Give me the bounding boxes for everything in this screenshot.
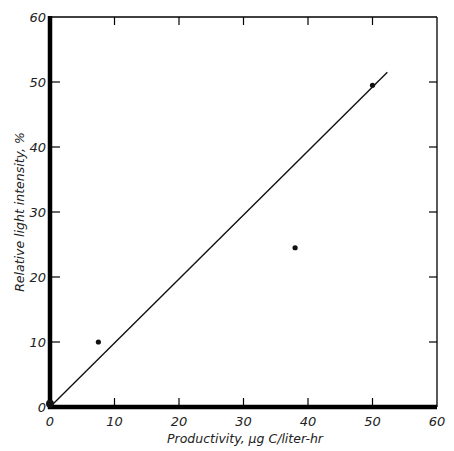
y-axis-title: Relative light intensity, % (12, 132, 27, 292)
x-tick-label: 50 (364, 414, 381, 429)
y-tick-label: 60 (29, 10, 46, 25)
fit-line (50, 72, 387, 407)
x-tick-label: 10 (106, 414, 123, 429)
chart: 0102030405060 0102030405060 Productivity… (0, 0, 454, 451)
y-tick-label: 40 (29, 140, 46, 155)
x-tick-label: 60 (429, 414, 446, 429)
y-tick-label: 30 (29, 205, 46, 220)
y-tick-label: 20 (29, 270, 46, 285)
x-tick-label: 30 (235, 414, 252, 429)
y-tick-label: 10 (29, 335, 46, 350)
x-tick-label: 20 (171, 414, 188, 429)
x-tick-label: 40 (300, 414, 317, 429)
x-axis-title: Productivity, μg C/liter-hr (167, 431, 324, 446)
y-tick-labels: 0102030405060 (29, 10, 46, 415)
data-point (96, 339, 101, 344)
data-series (46, 72, 387, 408)
x-tick-label: 0 (46, 414, 54, 429)
y-tick-label: 50 (29, 75, 46, 90)
data-point (293, 245, 298, 250)
y-tick-label: 0 (38, 400, 46, 415)
plot-frame (48, 16, 437, 409)
x-tick-labels: 0102030405060 (46, 414, 445, 429)
